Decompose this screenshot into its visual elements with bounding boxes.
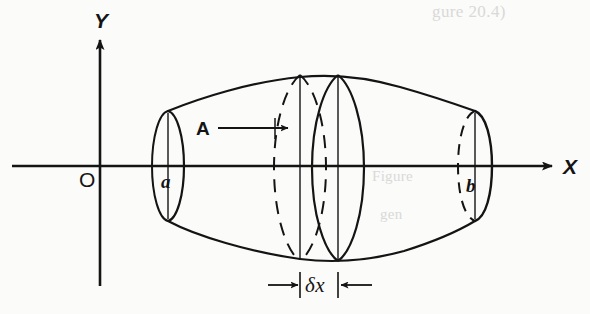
- lower-limit-label-a: a: [161, 172, 171, 191]
- slice-back-face-left-arc-hidden: [274, 75, 300, 261]
- y-axis-label: Y: [94, 10, 108, 31]
- origin-label: O: [79, 169, 95, 190]
- figure-canvas: gure 20.4) Figure gen: [0, 0, 590, 314]
- x-axis-label: X: [563, 156, 577, 177]
- slice-thickness-label-delta-x: δx: [305, 275, 325, 296]
- slice-element-group: [274, 75, 364, 261]
- cross-section-area-label-A: A: [196, 119, 210, 138]
- slice-front-face-right-arc: [338, 75, 364, 261]
- solid-of-revolution-drawing: [0, 0, 590, 314]
- profile-lower-curve: [168, 221, 475, 261]
- upper-limit-label-b: b: [466, 176, 476, 195]
- axis-group: [12, 40, 552, 286]
- area-leader-group: [218, 118, 288, 139]
